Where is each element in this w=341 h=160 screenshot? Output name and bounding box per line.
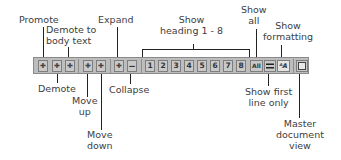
move-up-button[interactable] [83,60,93,72]
leader-move-down [101,73,102,130]
leader-show-all [256,29,257,58]
label-master-document-view: Master document view [276,118,324,151]
move-down-button[interactable] [96,60,106,72]
lines-icon [265,61,275,71]
label-show-heading: Show heading 1 - 8 [160,14,223,36]
master-document-view-button[interactable] [296,60,308,72]
show-first-line-only-button[interactable] [264,60,276,72]
leader-move-up [87,73,88,97]
label-show-first-line-only: Show first line only [245,86,292,108]
show-heading-7-button[interactable]: 7 [223,60,233,72]
label-demote: Demote [38,83,76,94]
show-heading-8-button[interactable]: 8 [236,60,246,72]
show-heading-4-button[interactable]: 4 [184,60,194,72]
leader-expand [117,27,118,58]
separator [78,59,79,73]
show-heading-6-button[interactable]: 6 [210,60,220,72]
leader-demote [57,73,58,83]
show-heading-3-button[interactable]: 3 [171,60,181,72]
label-collapse: Collapse [109,84,149,95]
separator [293,59,294,73]
label-demote-to-body-text: Demote to body text [46,24,96,46]
separator [110,59,111,73]
show-heading-1-button[interactable]: 1 [145,60,155,72]
leader-show-first-line-only [268,73,269,86]
label-show-formatting: Show formatting [263,20,313,42]
leader-collapse [130,73,131,84]
separator [141,59,142,73]
show-all-button[interactable]: All [250,60,263,72]
label-move-up: Move up [72,95,97,117]
label-expand: Expand [98,14,134,25]
show-heading-2-button[interactable]: 2 [158,60,168,72]
bracket-heading-top [142,49,250,50]
bracket-heading-stem [193,44,194,50]
show-heading-5-button[interactable]: 5 [197,60,207,72]
demote-to-body-text-button[interactable] [65,60,75,72]
leader-promote [43,27,44,58]
master-document-icon [297,61,307,71]
outlining-toolbar: 1 2 3 4 5 6 7 8 All ᴬA [33,57,309,74]
promote-button[interactable] [38,60,48,72]
expand-button[interactable] [114,60,124,72]
label-move-down: Move down [87,129,113,151]
leader-master-document-view [299,73,300,118]
demote-button[interactable] [52,60,62,72]
show-formatting-button[interactable]: ᴬA [277,60,290,72]
collapse-button[interactable] [127,60,137,72]
